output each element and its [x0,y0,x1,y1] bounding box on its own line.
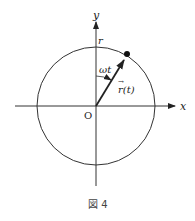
moving-point [124,51,130,57]
angle-arc [96,76,111,80]
angle-label: ωt [99,64,112,75]
x-axis-label: x [180,100,187,113]
figure-4: y x r O ωt → r(t) 図 4 [0,0,195,221]
figure-caption: 図 4 [88,199,108,210]
radius-label: r [98,35,104,46]
origin-label: O [84,110,92,121]
y-axis-label: y [92,9,100,22]
vector-label: r(t) [118,84,135,95]
